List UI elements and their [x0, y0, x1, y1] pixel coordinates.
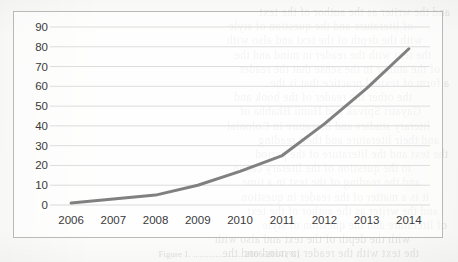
- x-axis-tick-labels: 200620072008200920102011201220132014: [14, 12, 444, 239]
- x-axis-tick-label: 2010: [227, 214, 253, 226]
- x-axis-tick-label: 2013: [354, 214, 380, 226]
- x-axis-tick-label: 2008: [143, 214, 169, 226]
- figure-caption: Figure 1. ...................... 2006-20…: [0, 249, 458, 262]
- x-axis-tick-label: 2014: [396, 214, 422, 226]
- chart-frame: 0102030405060708090 20062007200820092010…: [13, 11, 443, 238]
- x-axis-tick-label: 2011: [270, 214, 295, 226]
- x-axis-tick-label: 2007: [101, 214, 127, 226]
- x-axis-tick-label: 2012: [312, 214, 338, 226]
- scanned-page: and the writer as the author of the text…: [0, 0, 458, 262]
- x-axis-tick-label: 2009: [185, 214, 211, 226]
- x-axis-tick-label: 2006: [58, 214, 84, 226]
